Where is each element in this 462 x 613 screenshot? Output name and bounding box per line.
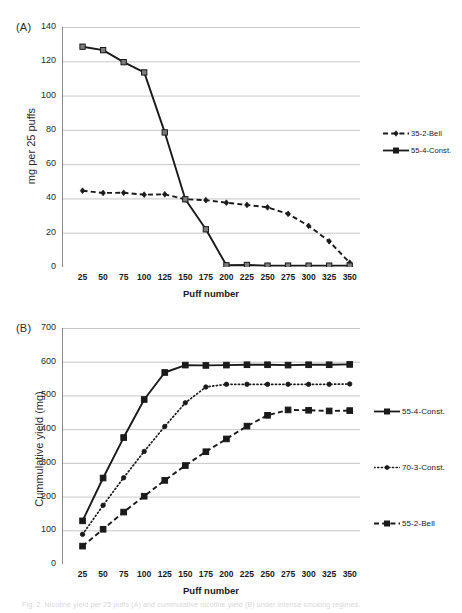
legend-label: 55-4-Const. [402,407,445,416]
y-tick-label: 100 [28,90,56,100]
y-tick-label: 40 [28,192,56,202]
y-tick-label: 0 [28,261,56,271]
legend-label: 55-4-Const. [411,146,451,155]
y-tick-label: 0 [28,558,56,568]
legend-item-55-4-const[interactable]: 55-4-Const. [383,145,451,156]
y-tick-label: 400 [28,423,56,433]
figure-caption: Fig. 2. Nicotine yield per 25 puffs (A) … [22,601,442,612]
legend-swatch [383,145,409,156]
y-tick-label: 600 [28,356,56,366]
y-tick-label: 60 [28,158,56,168]
legend-swatch [374,518,400,529]
y-tick-label: 200 [28,491,56,501]
legend-swatch [374,462,400,473]
legend-item-55-4-const[interactable]: 55-4-Const. [374,406,445,417]
legend-item-55-2-bell[interactable]: 55-2-Bell [374,518,435,529]
panel-b-plot-area [62,328,360,564]
legend-label: 70-3-Const. [402,463,445,472]
y-tick-label: 20 [28,227,56,237]
legend-item-70-3-const[interactable]: 70-3-Const. [374,462,445,473]
legend-swatch [383,128,409,139]
x-tick-label: 350 [336,272,364,282]
y-tick-label: 120 [28,55,56,65]
y-tick-label: 80 [28,124,56,134]
legend-item-35-2-bell[interactable]: 35-2-Bell [383,128,442,139]
panel-a-x-axis-title: Puff number [62,288,360,299]
legend-label: 55-2-Bell [402,519,435,528]
y-tick-label: 500 [28,389,56,399]
panel-b-y-axis-title: Cummulative yield (mg) [33,354,45,544]
y-tick-label: 700 [28,322,56,332]
legend-swatch [374,406,400,417]
panel-a-plot-area [62,27,360,267]
legend-label: 35-2-Bell [411,129,442,138]
y-tick-label: 100 [28,524,56,534]
y-tick-label: 300 [28,457,56,467]
panel-b-x-axis-title: Puff number [62,585,360,596]
x-tick-label: 350 [336,569,364,579]
chart-panel-a: (A) mg per 25 puffs 140120100806040200 2… [0,0,462,308]
chart-panel-b: (B) Cummulative yield (mg) 7006005004003… [0,308,462,603]
y-tick-label: 140 [28,21,56,31]
